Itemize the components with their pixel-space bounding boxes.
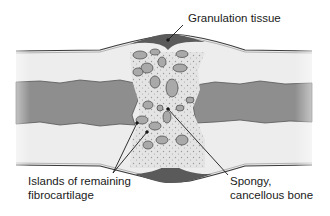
label-spongy-bone-line1: Spongy, [230, 175, 271, 188]
label-granulation-tissue: Granulation tissue [188, 12, 281, 25]
label-spongy-bone-line2: cancellous bone [230, 189, 313, 202]
label-islands-fibrocartilage-line1: Islands of remaining [28, 175, 131, 188]
label-islands-fibrocartilage-line2: fibrocartilage [28, 189, 94, 202]
fracture-healing-diagram: Granulation tissue Islands of remaining … [0, 0, 330, 216]
